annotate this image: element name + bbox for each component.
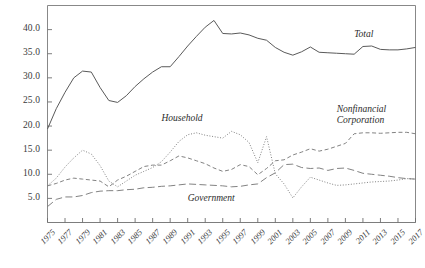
y-tick-label: 25.0	[6, 95, 40, 105]
series-line-household	[48, 131, 416, 198]
y-tick-label: 10.0	[6, 168, 40, 178]
y-tick-label: 40.0	[6, 23, 40, 33]
series-line-nonfinancial-corporation	[48, 132, 416, 187]
chart-figure: 5.010.015.020.025.030.035.040.0 19751977…	[0, 0, 425, 268]
y-tick-label: 35.0	[6, 47, 40, 57]
y-tick-label: 20.0	[6, 120, 40, 130]
series-label-total: Total	[354, 29, 373, 39]
line-chart-plot	[0, 0, 425, 268]
series-label-household: Household	[161, 113, 202, 123]
series-label-government: Government	[188, 193, 235, 203]
y-tick-label: 30.0	[6, 71, 40, 81]
series-label-corporation: Corporation	[337, 115, 385, 125]
series-label-nonfinancial: Nonfinancial	[337, 104, 387, 114]
y-tick-label: 15.0	[6, 144, 40, 154]
y-tick-label: 5.0	[6, 192, 40, 202]
